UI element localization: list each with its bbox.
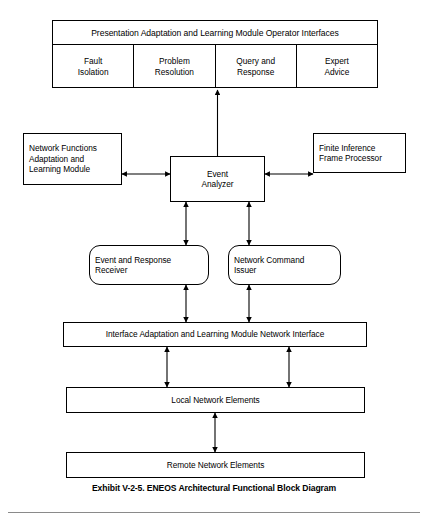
node-remote-network-elements: Remote Network Elements	[66, 452, 365, 478]
node-local-network-elements: Local Network Elements	[66, 387, 365, 413]
node-label: Local Network Elements	[171, 395, 259, 406]
node-finite-inference-frame-processor: Finite Inference Frame Processor	[313, 133, 406, 173]
operator-interfaces-cells: Fault Isolation Problem Resolution Query…	[53, 45, 377, 88]
architecture-diagram: Presentation Adaptation and Learning Mod…	[0, 0, 428, 523]
node-label: Event and Response Receiver	[95, 255, 171, 276]
operator-cell-problem-resolution: Problem Resolution	[134, 45, 215, 88]
node-network-functions-adaptation-and-learning-module: Network Functions Adaptation and Learnin…	[23, 133, 122, 185]
node-label: Interface Adaptation and Learning Module…	[106, 329, 325, 340]
node-label: Network Functions Adaptation and Learnin…	[29, 143, 97, 175]
node-label: Network Command Issuer	[234, 255, 304, 276]
operator-cell-expert-advice: Expert Advice	[297, 45, 377, 88]
node-event-analyzer: Event Analyzer	[170, 156, 265, 202]
operator-interfaces-title: Presentation Adaptation and Learning Mod…	[53, 21, 377, 45]
node-label: Remote Network Elements	[167, 460, 265, 471]
node-network-command-issuer: Network Command Issuer	[228, 245, 341, 285]
node-label: Event Analyzer	[202, 169, 234, 190]
operator-cell-fault-isolation: Fault Isolation	[53, 45, 134, 88]
operator-cell-query-and-response: Query and Response	[216, 45, 297, 88]
node-event-and-response-receiver: Event and Response Receiver	[89, 245, 209, 285]
node-label: Finite Inference Frame Processor	[319, 143, 382, 164]
node-interface-adaptation-network-interface: Interface Adaptation and Learning Module…	[63, 322, 367, 347]
operator-interfaces-panel: Presentation Adaptation and Learning Mod…	[52, 20, 378, 88]
figure-caption: Exhibit V-2-5. ENEOS Architectural Funct…	[0, 483, 428, 493]
footer-divider	[8, 512, 420, 513]
